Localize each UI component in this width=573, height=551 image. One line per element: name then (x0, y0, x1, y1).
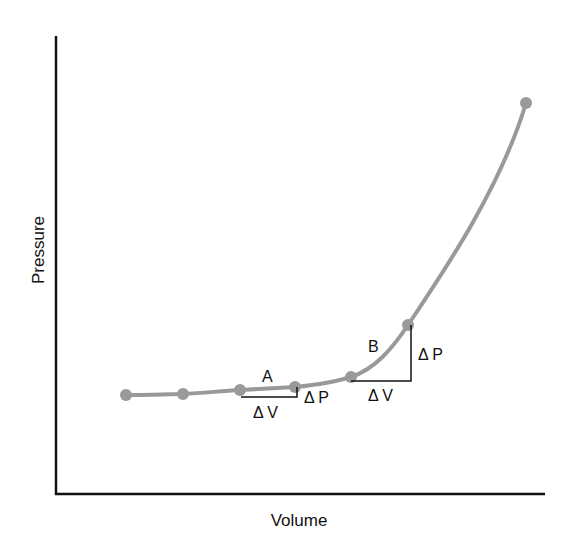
data-point (520, 97, 532, 109)
x-axis-label: Volume (271, 511, 328, 530)
pressure-volume-chart: A Δ V Δ P B Δ V Δ P Volume Pressure (0, 0, 573, 551)
triangle-a-dv-label: Δ V (253, 404, 278, 421)
axes (55, 36, 545, 495)
triangle-a-dp-label: Δ P (304, 389, 329, 406)
slope-triangle-a: A Δ V Δ P (241, 368, 329, 421)
data-point (289, 381, 301, 393)
data-point (234, 384, 246, 396)
y-axis-label: Pressure (29, 216, 48, 284)
data-point (120, 389, 132, 401)
pressure-curve (126, 103, 526, 395)
triangle-a-label: A (262, 368, 273, 385)
data-points (120, 97, 532, 401)
slope-triangle-b: B Δ V Δ P (351, 325, 443, 404)
data-point (177, 388, 189, 400)
triangle-b-dv-label: Δ V (368, 387, 393, 404)
data-point (402, 319, 414, 331)
triangle-b-dp-label: Δ P (418, 346, 443, 363)
triangle-b-label: B (368, 338, 379, 355)
